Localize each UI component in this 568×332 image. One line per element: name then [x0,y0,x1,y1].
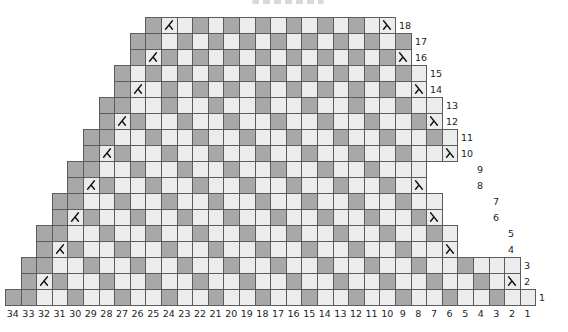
stitch-cell [286,193,302,210]
ssk-cell [411,81,427,98]
k2tog-icon [54,243,66,255]
stitch-cell [333,113,349,130]
ssk-icon [381,19,393,31]
stitch-cell [379,161,396,178]
row-number: 11 [461,132,473,144]
row-number: 2 [524,276,530,288]
stitch-cell [239,81,256,98]
stitch-cell [379,49,396,66]
stitch-cell [457,289,474,306]
stitch-cell [177,17,193,34]
stitch-cell [145,33,162,50]
stitch-cell [364,145,380,162]
stitch-cell [333,193,349,210]
column-number: 23 [176,308,192,320]
stitch-cell [489,257,505,274]
stitch-cell [411,97,427,114]
stitch-cell [333,225,349,242]
stitch-cell [317,257,334,274]
column-number: 22 [192,308,208,320]
stitch-cell [364,129,380,146]
stitch-cell [379,65,396,82]
stitch-cell [411,161,427,178]
column-number: 3 [488,308,504,320]
stitch-cell [348,97,365,114]
stitch-cell [301,33,318,50]
stitch-cell [255,49,271,66]
stitch-cell [395,273,412,290]
stitch-cell [177,97,193,114]
stitch-cell [379,129,396,146]
stitch-cell [270,17,287,34]
stitch-cell [489,289,505,306]
column-number: 8 [410,308,426,320]
stitch-cell [161,241,178,258]
stitch-cell [239,225,256,242]
k2tog-icon [132,83,144,95]
stitch-cell [99,225,115,242]
stitch-cell [223,273,240,290]
column-number: 9 [395,308,411,320]
stitch-cell [395,97,412,114]
stitch-cell [333,65,349,82]
column-number: 7 [426,308,442,320]
stitch-cell [208,193,224,210]
stitch-cell [192,257,209,274]
stitch-cell [177,289,193,306]
column-number: 34 [5,308,21,320]
stitch-cell [52,289,68,306]
stitch-cell [255,161,271,178]
stitch-cell [239,145,256,162]
column-number: 18 [254,308,270,320]
k2tog-icon [163,19,175,31]
stitch-cell [114,65,131,82]
stitch-cell [348,65,365,82]
row-number: 14 [430,84,442,96]
row-number: 12 [446,116,458,128]
stitch-cell [99,177,115,194]
stitch-cell [208,209,224,226]
stitch-cell [301,289,318,306]
stitch-cell [130,145,146,162]
stitch-cell [255,193,271,210]
ssk-cell [379,17,396,34]
stitch-cell [130,113,146,130]
stitch-cell [426,241,443,258]
stitch-cell [442,129,458,146]
row-number: 3 [524,260,530,272]
stitch-cell [379,289,396,306]
row-number: 4 [508,244,514,256]
stitch-cell [114,257,131,274]
column-number: 31 [52,308,68,320]
k2tog-cell [52,241,68,258]
stitch-cell [67,289,84,306]
stitch-cell [161,129,178,146]
stitch-cell [348,209,365,226]
column-number: 2 [504,308,520,320]
k2tog-cell [130,81,146,98]
stitch-cell [364,225,380,242]
stitch-cell [395,209,412,226]
stitch-cell [192,209,209,226]
stitch-cell [333,33,349,50]
stitch-cell [52,209,68,226]
stitch-cell [333,177,349,194]
stitch-cell [286,97,302,114]
stitch-cell [301,145,318,162]
stitch-cell [426,257,443,274]
stitch-cell [379,81,396,98]
stitch-cell [286,161,302,178]
stitch-cell [255,145,271,162]
stitch-cell [301,65,318,82]
stitch-cell [223,145,240,162]
stitch-cell [145,81,162,98]
stitch-cell [114,289,131,306]
stitch-cell [99,113,115,130]
k2tog-icon [101,147,113,159]
column-number: 32 [36,308,52,320]
stitch-cell [114,81,131,98]
stitch-cell [270,257,287,274]
k2tog-icon [116,115,128,127]
k2tog-icon [69,211,81,223]
stitch-cell [426,129,443,146]
